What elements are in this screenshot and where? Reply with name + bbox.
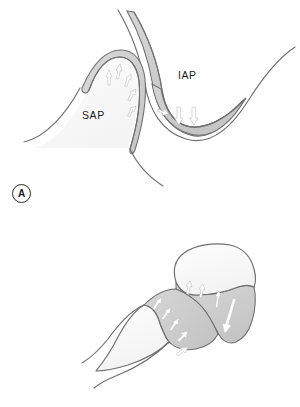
panel-a: A SAP IAP [0, 0, 300, 215]
panel-a-illustration [0, 0, 300, 215]
sap-structure-a [36, 50, 145, 154]
panel-label-a: A [12, 184, 31, 203]
iap-structure-a [126, 8, 296, 136]
iap-structure-b [82, 289, 218, 388]
sap-inferior-contour-a [130, 149, 163, 186]
figure-container: A SAP IAP [0, 0, 300, 407]
sap-bone-body-a [36, 56, 139, 148]
label-sap-panel-a: SAP [82, 109, 105, 121]
panel-b-illustration [0, 215, 300, 407]
label-iap-panel-a: IAP [178, 69, 197, 81]
panel-b: B SAP IAP [0, 215, 300, 407]
